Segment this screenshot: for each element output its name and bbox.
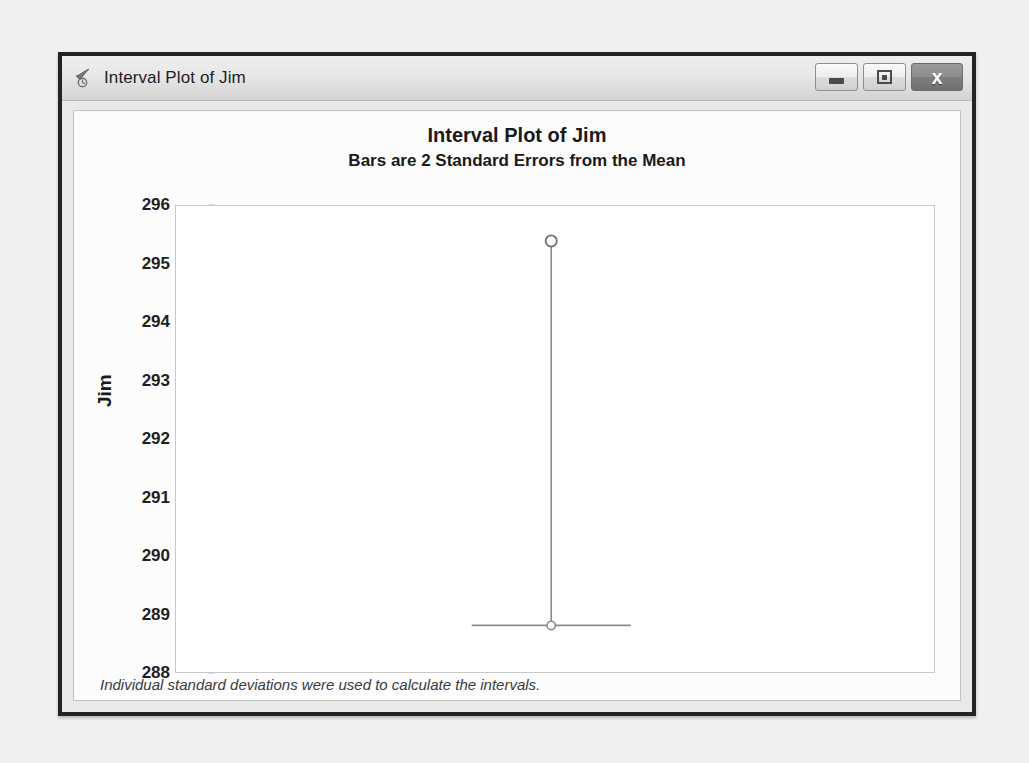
interval-plot-graphics — [176, 206, 934, 672]
window-title: Interval Plot of Jim — [104, 68, 246, 88]
window-titlebar[interactable]: Interval Plot of Jim x — [62, 56, 972, 101]
y-tick-label: 291 — [118, 488, 170, 508]
chart-subtitle: Bars are 2 Standard Errors from the Mean — [74, 150, 960, 172]
maximize-icon — [877, 70, 892, 84]
maximize-button[interactable] — [863, 63, 906, 91]
y-tick-label: 295 — [118, 254, 170, 274]
minitab-graph-icon — [72, 65, 98, 91]
page-title: Interval Plot of Jim — [74, 123, 960, 148]
plot-area[interactable] — [175, 205, 935, 673]
graph-window: Interval Plot of Jim x Interval Plot of … — [58, 52, 976, 716]
chart-title-block: Interval Plot of Jim Bars are 2 Standard… — [74, 123, 960, 172]
y-tick-label: 292 — [118, 429, 170, 449]
y-tick-label: 293 — [118, 371, 170, 391]
y-tick-label: 296 — [118, 195, 170, 215]
y-tick-label: 294 — [118, 312, 170, 332]
window-controls: x — [815, 63, 963, 91]
minimize-button[interactable] — [815, 63, 858, 91]
minimize-icon — [829, 78, 844, 84]
close-icon: x — [931, 67, 942, 87]
y-tick-label: 290 — [118, 546, 170, 566]
y-axis-ticks: 296295294293292291290289288 — [112, 111, 170, 700]
y-tick-label: 289 — [118, 605, 170, 625]
close-button[interactable]: x — [911, 63, 963, 91]
chart-footnote: Individual standard deviations were used… — [100, 676, 540, 693]
window-client-area: Interval Plot of Jim Bars are 2 Standard… — [62, 101, 972, 712]
mean-marker — [546, 235, 557, 246]
graph-panel[interactable]: Interval Plot of Jim Bars are 2 Standard… — [73, 110, 961, 701]
interval-lower-marker — [547, 621, 555, 629]
